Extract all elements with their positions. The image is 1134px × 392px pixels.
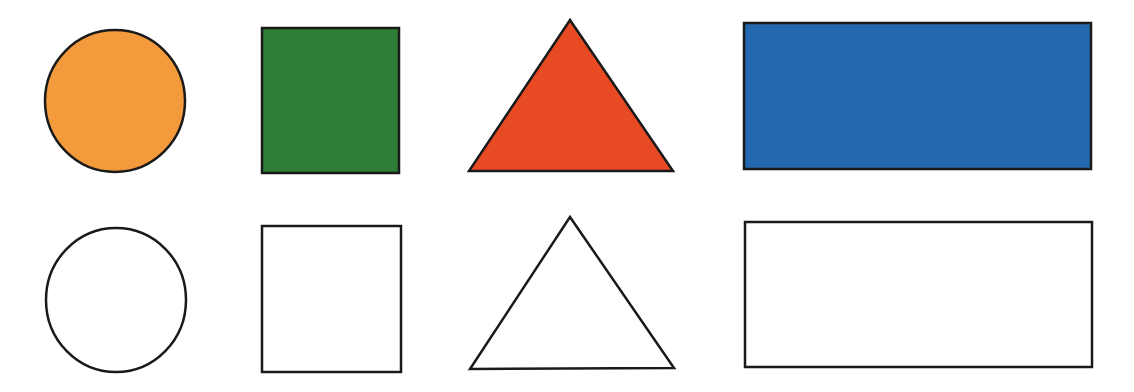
outline-shapes-row	[46, 217, 1092, 372]
red-triangle	[469, 20, 673, 171]
outline-circle	[46, 228, 186, 372]
colored-shapes-row	[45, 20, 1091, 173]
outline-rectangle	[745, 222, 1092, 367]
shapes-diagram	[0, 0, 1134, 392]
green-square	[262, 28, 399, 173]
orange-circle	[45, 30, 185, 172]
blue-rectangle	[744, 23, 1091, 169]
outline-square	[262, 226, 401, 372]
outline-triangle	[470, 217, 674, 369]
